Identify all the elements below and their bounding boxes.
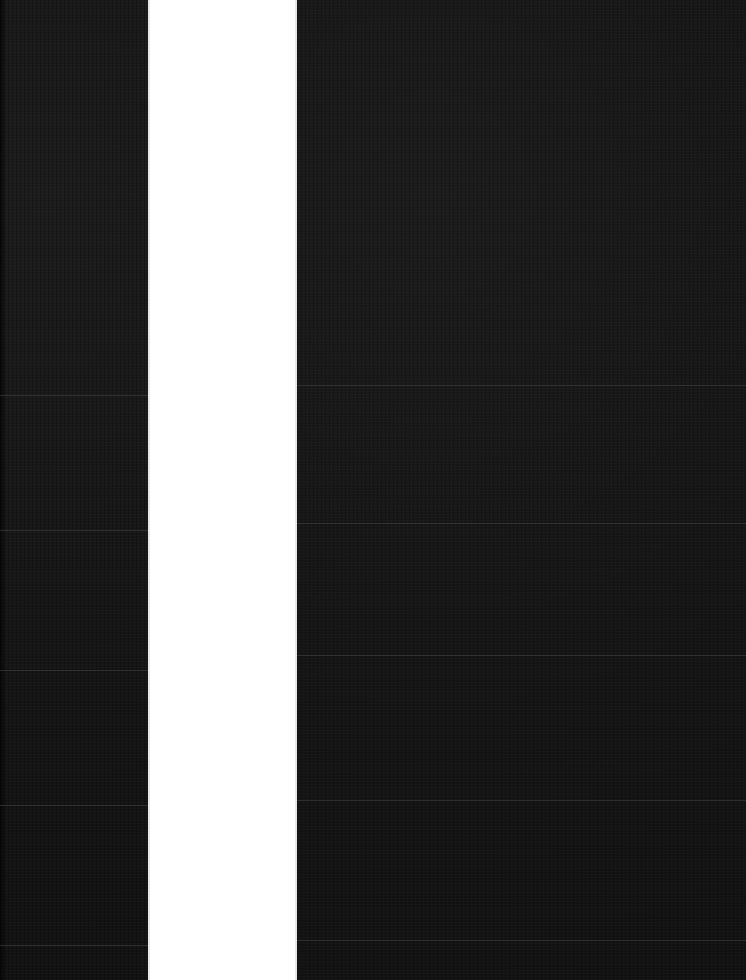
right-panel-scanline	[297, 800, 746, 801]
left-panel-scanline	[0, 670, 148, 671]
left-shadow-edge	[0, 0, 6, 980]
right-panel-scanline	[297, 940, 746, 941]
left-panel-scanline	[0, 945, 148, 946]
right-panel-scanline	[297, 655, 746, 656]
right-panel-scanline	[297, 523, 746, 524]
white-vertical-strip	[148, 0, 297, 980]
left-dark-panel	[0, 0, 148, 980]
strip-left-edge	[148, 0, 150, 980]
right-dark-panel	[297, 0, 746, 980]
right-panel-scanline	[297, 385, 746, 386]
left-panel-scanline	[0, 530, 148, 531]
left-panel-scanline	[0, 395, 148, 396]
left-panel-scanline	[0, 805, 148, 806]
